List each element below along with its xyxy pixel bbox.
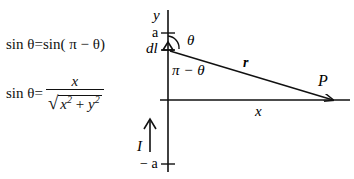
wire-field-diagram: y a dl θ π − θ r P x I − a <box>0 0 354 179</box>
theta-label: θ <box>187 32 195 48</box>
y-axis-label: y <box>151 7 160 23</box>
r-label: r <box>243 55 249 70</box>
tick-a-label: a <box>152 25 159 40</box>
angle-arc <box>168 36 179 49</box>
P-label: P <box>317 72 328 89</box>
x-label: x <box>254 103 262 119</box>
pi-minus-theta-label: π − θ <box>172 62 205 78</box>
current-label: I <box>136 138 143 154</box>
dl-label: dl <box>146 40 158 56</box>
tick-minus-a-label: − a <box>140 156 158 171</box>
